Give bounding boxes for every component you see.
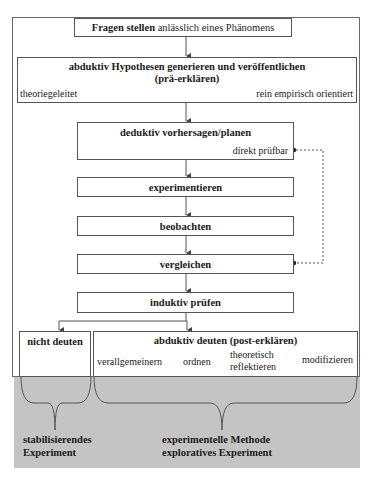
theory-guided-label: theoriegeleitet <box>20 88 77 99</box>
item-modify: modifizieren <box>302 354 353 365</box>
item-reflect: reflektieren <box>230 361 276 372</box>
step-experiment: experimentieren <box>77 177 294 197</box>
item-theoretical: theoretisch <box>230 349 274 360</box>
step-compare: vergleichen <box>77 254 294 274</box>
item-generalize: verallgemeinern <box>97 356 162 367</box>
ask-questions-box: Fragen stellen anlässlich eines Phänomen… <box>74 18 292 37</box>
explorative-experiment-label: exploratives Experiment <box>162 447 272 459</box>
abductive-interpret-title: abduktiv deuten (post-erklären) <box>94 335 357 347</box>
directly-testable-label: direkt prüfbar <box>233 145 288 156</box>
step-observe: beobachten <box>77 216 294 236</box>
step-inductive-test: induktiv prüfen <box>77 292 294 313</box>
item-order: ordnen <box>183 356 211 367</box>
deductive-box: deduktiv vorhersagen/planen direkt prüfb… <box>77 122 294 160</box>
abductive-interpret-box: abduktiv deuten (post-erklären) verallge… <box>93 331 358 377</box>
ask-questions-text: anlässlich eines Phänomens <box>155 22 274 33</box>
stabilizing-label-1: stabilisierendes <box>23 434 92 446</box>
empirical-label: rein empirisch orientiert <box>256 88 353 99</box>
deductive-title: deduktiv vorhersagen/planen <box>78 127 293 139</box>
not-interpret-box: nicht deuten <box>19 331 91 377</box>
hypothesis-box: abduktiv Hypothesen generieren und veröf… <box>17 57 357 103</box>
hypothesis-title-1: abduktiv Hypothesen generieren und veröf… <box>18 61 356 73</box>
experimental-method-label: experimentelle Methode <box>162 434 270 446</box>
ask-questions-bold: Fragen stellen <box>92 22 155 33</box>
hypothesis-title-2: (prä-erklären) <box>18 73 356 85</box>
stabilizing-label-2: Experiment <box>23 447 76 459</box>
not-interpret-title: nicht deuten <box>20 336 90 348</box>
